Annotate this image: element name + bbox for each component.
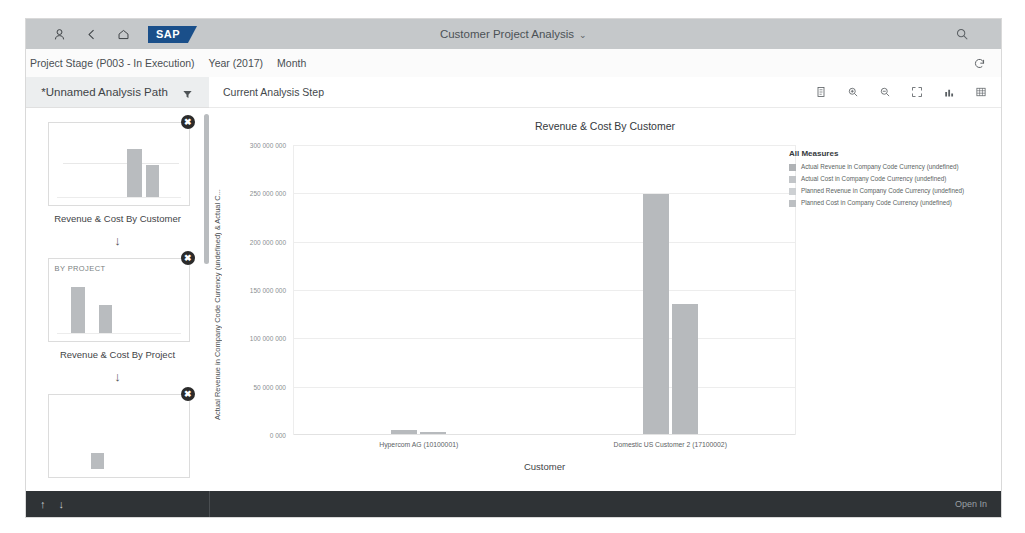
zoom-in-icon[interactable] (846, 86, 859, 99)
page-title: Customer Project Analysis (440, 28, 574, 40)
chart-toolbar (814, 86, 987, 99)
legend-label: Planned Cost in Company Code Currency (u… (801, 199, 952, 207)
analysis-step-card-3[interactable]: ✖ (48, 394, 188, 478)
sap-logo: SAP (148, 26, 188, 43)
table-icon[interactable] (974, 86, 987, 99)
thumbnail-inner-label-2: BY PROJECT (55, 264, 106, 273)
thumbnail-mini-chart-2 (49, 273, 189, 333)
analysis-step-caption-2: Revenue & Cost By Project (48, 349, 188, 360)
analysis-step-thumbnail-2[interactable]: BY PROJECT (48, 258, 190, 342)
bar-groups (293, 145, 796, 434)
chart-container: Revenue & Cost By Customer Actual Revenu… (209, 107, 1001, 491)
filter-list: Project Stage (P003 - In Execution) Year… (26, 57, 306, 69)
application-frame: SAP Customer Project Analysis⌄ Project S… (25, 18, 1002, 518)
zoom-out-icon[interactable] (878, 86, 891, 99)
analysis-path-panel: *Unnamed Analysis Path ✖ (26, 77, 210, 491)
thumbnail-mini-chart-3 (49, 409, 189, 469)
chart-title: Revenue & Cost By Customer (209, 120, 1001, 132)
legend-item[interactable]: Planned Revenue in Company Code Currency… (789, 187, 979, 195)
x-axis-title: Customer (293, 461, 796, 472)
y-axis-ticks: 300 000 000 250 000 000 200 000 000 150 … (225, 145, 291, 435)
filter-year[interactable]: Year (2017) (209, 57, 263, 69)
remove-step-icon-3[interactable]: ✖ (181, 387, 195, 401)
legend-swatch (789, 176, 796, 183)
filter-project-stage[interactable]: Project Stage (P003 - In Execution) (30, 57, 195, 69)
legend-label: Planned Revenue in Company Code Currency… (801, 187, 964, 195)
filter-icon[interactable] (182, 86, 194, 98)
chart-legend: All Measures Actual Revenue in Company C… (789, 149, 979, 211)
y-tick-label: 0 000 (270, 432, 286, 439)
plot-wrapper: Actual Revenue in Company Code Currency … (209, 145, 1001, 491)
current-analysis-step-title: Current Analysis Step (223, 86, 324, 98)
thumbnail-mini-chart-1 (49, 137, 189, 197)
x-axis-category-labels: Hypercom AG (10100001) Domestic US Custo… (293, 441, 796, 448)
category-label: Domestic US Customer 2 (17100002) (545, 441, 797, 448)
analysis-step-thumbnail-1[interactable] (48, 122, 190, 206)
bar-group-domestic-us-customer-2 (545, 145, 797, 434)
filter-month[interactable]: Month (277, 57, 306, 69)
y-tick-label: 300 000 000 (250, 142, 286, 149)
legend-swatch (789, 200, 796, 207)
back-icon[interactable] (84, 27, 99, 42)
remove-step-icon-1[interactable]: ✖ (181, 115, 195, 129)
footer-divider (209, 491, 210, 517)
chart-icon[interactable] (942, 86, 955, 99)
bar-actual-revenue (643, 194, 669, 434)
analysis-step-caption-1: Revenue & Cost By Customer (48, 213, 188, 224)
search-icon[interactable] (955, 27, 969, 41)
legend-item[interactable]: Actual Cost in Company Code Currency (un… (789, 175, 979, 183)
remove-step-icon-2[interactable]: ✖ (181, 251, 195, 265)
legend-item[interactable]: Actual Revenue in Company Code Currency … (789, 163, 979, 171)
arrow-up-icon[interactable]: ↑ (40, 498, 46, 510)
filter-bar: Project Stage (P003 - In Execution) Year… (26, 49, 1001, 78)
category-label: Hypercom AG (10100001) (293, 441, 545, 448)
chevron-down-icon: ⌄ (579, 30, 587, 40)
open-in-button[interactable]: Open In (955, 499, 987, 509)
step-arrow-2: ↓ (26, 369, 209, 384)
shell-bar: SAP Customer Project Analysis⌄ (26, 19, 1001, 49)
shell-bar-left-group: SAP (26, 26, 188, 43)
footer-bar: ↑ ↓ Open In (26, 491, 1001, 517)
step-arrow-1: ↓ (26, 233, 209, 248)
analysis-step-card-2[interactable]: BY PROJECT ✖ Revenue & Cost By Project (48, 258, 188, 360)
analysis-path-steps: ✖ Revenue & Cost By Customer ↓ BY PROJEC… (26, 108, 209, 491)
analysis-step-card-1[interactable]: ✖ Revenue & Cost By Customer (48, 122, 188, 224)
analysis-step-thumbnail-3[interactable] (48, 394, 190, 478)
y-tick-label: 200 000 000 (250, 238, 286, 245)
legend-label: Actual Revenue in Company Code Currency … (801, 163, 959, 171)
fullscreen-icon[interactable] (910, 86, 923, 99)
legend-title: All Measures (789, 149, 979, 158)
bar-group-hypercom (293, 145, 545, 434)
x-axis-line (293, 434, 796, 435)
content-header: Current Analysis Step (209, 77, 1001, 108)
bar-actual-cost (672, 304, 698, 435)
footer-left-actions: ↑ ↓ (40, 498, 64, 510)
content-area: Current Analysis Step (209, 77, 1001, 491)
arrow-down-icon[interactable]: ↓ (59, 498, 65, 510)
legend-swatch (789, 164, 796, 171)
analysis-path-header: *Unnamed Analysis Path (26, 77, 209, 108)
refresh-icon[interactable] (973, 56, 987, 70)
document-icon[interactable] (814, 86, 827, 99)
y-tick-label: 50 000 000 (253, 383, 286, 390)
bar-actual-cost (420, 432, 446, 435)
y-axis-title: Actual Revenue in Company Code Currency … (209, 155, 225, 455)
y-tick-label: 100 000 000 (250, 335, 286, 342)
app-root: SAP Customer Project Analysis⌄ Project S… (0, 0, 1025, 533)
legend-label: Actual Cost in Company Code Currency (un… (801, 175, 946, 183)
home-icon[interactable] (116, 27, 131, 42)
y-tick-label: 250 000 000 (250, 190, 286, 197)
analysis-path-title: *Unnamed Analysis Path (41, 86, 168, 98)
legend-swatch (789, 188, 796, 195)
plot-area (293, 145, 796, 435)
bar-actual-revenue (391, 430, 417, 434)
legend-item[interactable]: Planned Cost in Company Code Currency (u… (789, 199, 979, 207)
y-tick-label: 150 000 000 (250, 287, 286, 294)
user-icon[interactable] (52, 27, 67, 42)
